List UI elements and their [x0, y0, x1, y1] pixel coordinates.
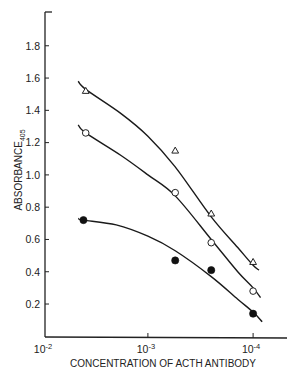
- y-axis-title-text: ABSORBANCE: [13, 141, 24, 211]
- y-tick-label: 1.2: [25, 136, 40, 148]
- filled-circle-marker: [80, 216, 87, 223]
- fit-curve: [78, 218, 262, 321]
- filled-circle-marker: [250, 310, 257, 317]
- data-markers: [80, 87, 257, 317]
- y-tick-label: 1.8: [25, 40, 40, 52]
- triangle-marker: [172, 147, 179, 153]
- open-circle-marker: [250, 288, 257, 295]
- x-tick-label: 10-4: [242, 342, 260, 355]
- y-tick-label: 1.0: [25, 169, 40, 181]
- absorbance-chart: 0.20.40.60.81.01.21.41.61.8 10-210-310-4…: [0, 0, 294, 374]
- fit-curve: [78, 125, 260, 298]
- y-tick-label: 0.4: [25, 266, 40, 278]
- y-axis: 0.20.40.60.81.01.21.41.61.8: [25, 12, 52, 337]
- y-axis-title: ABSORBANCE405: [13, 129, 26, 210]
- open-circle-marker: [208, 239, 215, 246]
- filled-circle-marker: [172, 257, 179, 264]
- y-tick-label: 1.4: [25, 104, 40, 116]
- x-tick-label: 10-3: [137, 342, 155, 355]
- x-axis-title: CONCENTRATION OF ACTH ANTIBODY: [70, 358, 256, 369]
- x-axis-line: [45, 337, 287, 338]
- triangle-marker: [250, 258, 257, 264]
- y-tick-label: 0.6: [25, 233, 40, 245]
- open-circle-marker: [82, 130, 89, 137]
- x-axis: 10-210-310-4: [34, 333, 287, 355]
- y-axis-title-subscript: 405: [19, 129, 26, 141]
- x-tick-label: 10-2: [34, 342, 52, 355]
- open-circle-marker: [172, 189, 179, 196]
- y-tick-label: 1.6: [25, 72, 40, 84]
- fit-curve: [78, 81, 259, 270]
- fit-curves: [78, 81, 262, 321]
- filled-circle-marker: [208, 267, 215, 274]
- x-ticks: 10-210-310-4: [34, 333, 260, 355]
- y-tick-label: 0.8: [25, 201, 40, 213]
- y-tick-label: 0.2: [25, 298, 40, 310]
